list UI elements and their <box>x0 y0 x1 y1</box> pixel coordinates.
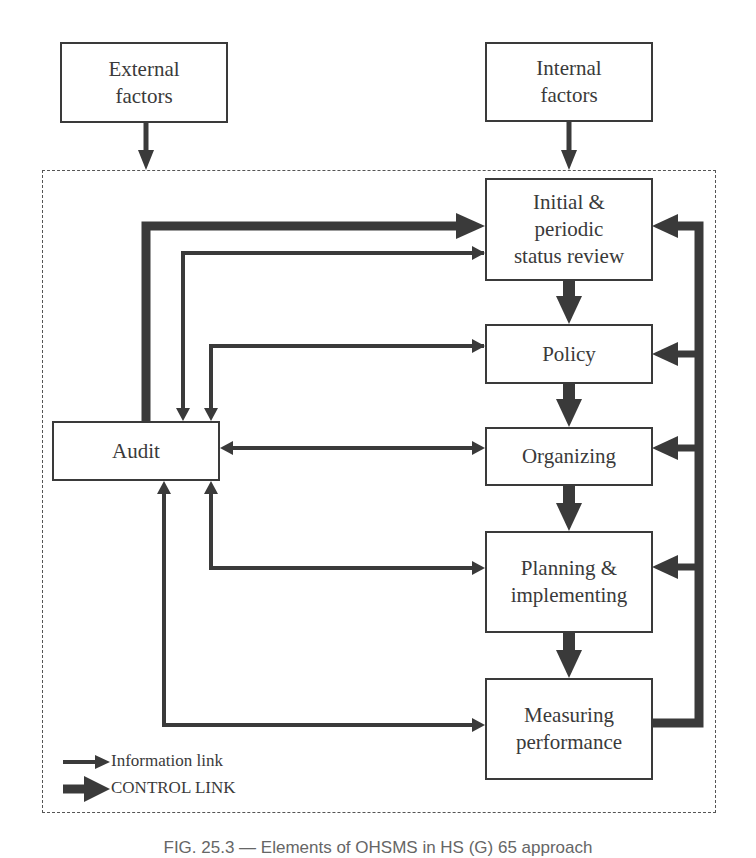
control-arrow-initial-policy <box>556 280 582 324</box>
info-organizing-audit <box>220 441 485 455</box>
info-initial-audit <box>176 246 485 421</box>
legend-control-arrow-icon <box>63 776 110 802</box>
audit-box: Audit <box>52 421 220 481</box>
info-measuring-audit <box>157 481 485 732</box>
external-factors-box: External factors <box>60 42 228 123</box>
legend-information-arrow-icon <box>63 755 110 769</box>
planning-box: Planning & implementing <box>485 531 653 633</box>
control-arrow-organizing-planning <box>556 485 582 531</box>
figure-caption: FIG. 25.3 — Elements of OHSMS in HS (G) … <box>0 838 756 858</box>
legend-information-label: Information link <box>111 751 223 771</box>
control-arrow-planning-measuring <box>556 632 582 678</box>
control-audit-initial <box>146 213 485 421</box>
measuring-box: Measuring performance <box>485 678 653 780</box>
internal-arrow <box>561 122 577 170</box>
initial-review-box: Initial & periodic status review <box>485 178 653 281</box>
internal-factors-box: Internal factors <box>485 42 653 122</box>
info-policy-audit <box>204 339 485 421</box>
legend-control-label: CONTROL LINK <box>111 778 236 798</box>
organizing-box: Organizing <box>485 427 653 486</box>
control-feedback-loop <box>652 214 699 723</box>
info-planning-audit <box>204 481 485 575</box>
external-arrow <box>138 123 154 170</box>
policy-box: Policy <box>485 324 653 384</box>
control-arrow-policy-organizing <box>556 383 582 427</box>
